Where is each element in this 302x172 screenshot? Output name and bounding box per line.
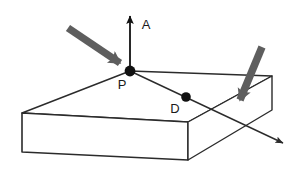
- label-normal-a: A: [142, 17, 151, 32]
- label-point-p: P: [118, 77, 127, 92]
- label-point-d: D: [170, 101, 179, 116]
- incident-ray-arrow: [68, 28, 120, 63]
- slab-front-face: [22, 113, 188, 160]
- point-p-marker: [125, 66, 136, 77]
- rectangular-slab: [22, 71, 272, 160]
- figure-canvas: A P D: [0, 0, 302, 172]
- point-d-marker: [181, 92, 191, 102]
- optics-diagram: A P D: [0, 0, 302, 172]
